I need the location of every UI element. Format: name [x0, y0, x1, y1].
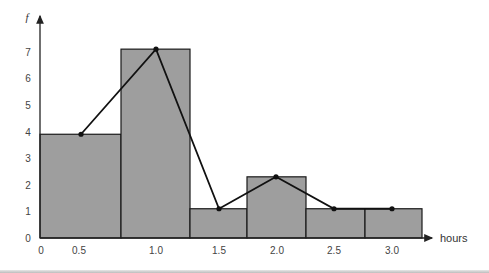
- y-axis-label: f: [25, 11, 30, 23]
- histogram-bar: [365, 209, 422, 238]
- y-tick-label: 0: [25, 233, 31, 244]
- y-tick-label: 4: [25, 127, 31, 138]
- x-axis-label: hours: [440, 232, 468, 244]
- x-tick-label: 1.0: [149, 245, 163, 256]
- histogram-bar: [190, 209, 247, 238]
- histogram-bar: [306, 209, 365, 238]
- y-tick-labels: 01234567: [25, 47, 31, 244]
- polygon-point: [153, 47, 158, 52]
- polygon-point: [331, 206, 336, 211]
- x-tick-label: 1.5: [212, 245, 226, 256]
- x-tick-label: 0: [38, 245, 44, 256]
- polygon-point: [216, 206, 221, 211]
- histogram-bar: [247, 177, 306, 238]
- y-tick-label: 5: [25, 100, 31, 111]
- x-tick-label: 3.0: [385, 245, 399, 256]
- histogram-bar: [40, 134, 121, 238]
- polygon-point: [78, 132, 83, 137]
- polygon-point: [273, 174, 278, 179]
- histogram-chart: 01234567 00.51.01.52.02.53.0 f hours: [0, 0, 489, 273]
- y-tick-label: 7: [25, 47, 31, 58]
- y-tick-label: 1: [25, 206, 31, 217]
- histogram-bars: [40, 49, 422, 238]
- x-tick-label: 2.5: [327, 245, 341, 256]
- y-tick-label: 2: [25, 180, 31, 191]
- x-tick-label: 0.5: [72, 245, 86, 256]
- y-tick-label: 3: [25, 153, 31, 164]
- y-tick-label: 6: [25, 73, 31, 84]
- x-tick-label: 2.0: [270, 245, 284, 256]
- x-tick-labels: 00.51.01.52.02.53.0: [38, 245, 399, 256]
- polygon-point: [389, 206, 394, 211]
